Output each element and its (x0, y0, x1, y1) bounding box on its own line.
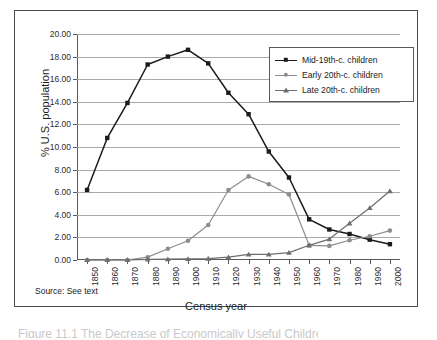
data-point (246, 112, 250, 116)
data-point (206, 61, 210, 65)
x-tick (370, 260, 371, 264)
legend-item[interactable]: Early 20th-c. children (275, 67, 407, 82)
x-tick-label: 1940 (273, 267, 282, 286)
legend-label: Mid-19th-c. children (302, 55, 377, 65)
data-point (287, 192, 292, 197)
data-point (85, 188, 89, 192)
y-tick-label: 8.00 (54, 165, 71, 174)
x-tick-label: 2000 (394, 267, 403, 286)
x-tick-label: 1900 (192, 267, 201, 286)
x-tick-label: 1980 (354, 267, 363, 286)
source-note: Source: See text (35, 286, 98, 296)
data-point (186, 238, 191, 243)
data-point (166, 246, 171, 251)
y-tick-label: 12.00 (50, 120, 71, 129)
data-point (267, 149, 271, 153)
legend-item[interactable]: Late 20th-c. children (275, 82, 407, 97)
x-tick (390, 260, 391, 264)
data-point (186, 48, 190, 52)
series-3 (84, 188, 393, 262)
data-point (266, 182, 271, 187)
figure-root: % U.S. population 0.002.004.006.008.0010… (0, 0, 437, 340)
legend-item[interactable]: Mid-19th-c. children (275, 52, 407, 67)
x-tick-label: 1920 (232, 267, 241, 286)
x-tick-label: 1880 (152, 267, 161, 286)
x-tick-label: 1890 (172, 267, 181, 286)
y-tick-label: 16.00 (50, 75, 71, 84)
x-tick (309, 260, 310, 264)
x-axis-title: Census year (15, 300, 417, 312)
y-tick-label: 4.00 (54, 211, 71, 220)
x-tick (249, 260, 250, 264)
x-tick (289, 260, 290, 264)
y-tick-label: 2.00 (54, 233, 71, 242)
chart-legend: Mid-19th-c. children Early 20th-c. child… (269, 47, 414, 102)
y-tick (73, 260, 77, 261)
x-tick-label: 1990 (374, 267, 383, 286)
y-tick-label: 14.00 (50, 98, 71, 107)
series-line (87, 176, 390, 260)
x-tick-label: 1960 (313, 267, 322, 286)
data-point (327, 244, 332, 249)
legend-label: Late 20th-c. children (302, 85, 380, 95)
data-point (347, 232, 351, 236)
x-tick (228, 260, 229, 264)
legend-marker-square-icon (275, 55, 297, 65)
data-point (347, 238, 352, 243)
x-tick-label: 1950 (293, 267, 302, 286)
x-tick-label: 1870 (131, 267, 140, 286)
data-point (387, 188, 393, 193)
y-tick-label: 20.00 (50, 30, 71, 39)
data-point (226, 91, 230, 95)
y-tick-label: 0.00 (54, 256, 71, 265)
series-2 (85, 174, 392, 262)
x-tick-label: 1930 (253, 267, 262, 286)
y-tick-label: 18.00 (50, 52, 71, 61)
data-point (327, 227, 331, 231)
data-point (206, 223, 211, 228)
x-tick-label: 1970 (333, 267, 342, 286)
data-point (388, 228, 393, 233)
data-point (125, 101, 129, 105)
x-tick (329, 260, 330, 264)
figure-caption-cropped: Figure 11.1 The Decrease of Economically… (18, 327, 318, 338)
legend-label: Early 20th-c. children (302, 70, 383, 80)
y-tick-label: 10.00 (50, 143, 71, 152)
x-tick (350, 260, 351, 264)
x-tick-label: 1910 (212, 267, 221, 286)
series-line (87, 191, 390, 260)
x-tick-label: 1860 (111, 267, 120, 286)
data-point (145, 62, 149, 66)
legend-marker-triangle-icon (275, 85, 297, 95)
data-point (307, 217, 311, 221)
data-point (105, 136, 109, 140)
figure-border-box: % U.S. population 0.002.004.006.008.0010… (14, 10, 418, 307)
y-tick-label: 6.00 (54, 188, 71, 197)
data-point (226, 188, 231, 193)
x-tick (269, 260, 270, 264)
legend-marker-circle-icon (275, 70, 297, 80)
data-point (166, 54, 170, 58)
data-point (388, 242, 392, 246)
data-point (246, 174, 251, 179)
data-point (287, 175, 291, 179)
data-point (367, 234, 372, 239)
x-tick-label: 1850 (91, 267, 100, 286)
